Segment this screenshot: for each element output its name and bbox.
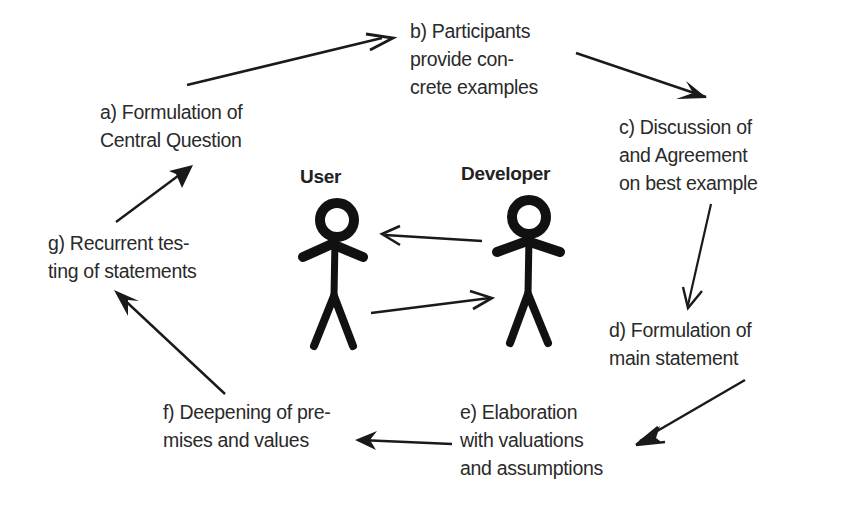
arrow-developer-to-user (382, 226, 482, 245)
step-e-line-1: e) Elaboration (460, 398, 603, 426)
step-e-line-3: and assumptions (460, 454, 603, 482)
step-a-formulation-central-question: a) Formulation of Central Question (100, 98, 242, 154)
step-f-line-1: f) Deepening of pre- (163, 398, 330, 426)
step-d-line-1: d) Formulation of (609, 316, 751, 344)
actor-label-user: User (300, 166, 341, 188)
arrow-g-to-a (116, 165, 193, 222)
arrow-user-to-developer (371, 291, 492, 313)
arrow-f-to-g (114, 290, 225, 394)
step-c-line-1: c) Discussion of (619, 113, 758, 141)
step-f-deepening-premises: f) Deepening of pre- mises and values (163, 398, 330, 454)
arrow-a-to-b (187, 34, 393, 85)
step-b-participants-examples: b) Participants provide con- crete examp… (410, 17, 538, 101)
user-stick-figure (303, 203, 363, 346)
step-b-line-1: b) Participants (410, 17, 538, 45)
arrow-b-to-c (576, 53, 707, 99)
arrow-c-to-d (683, 204, 711, 308)
developer-stick-figure (497, 200, 560, 343)
step-b-line-2: provide con- (410, 45, 538, 73)
step-d-formulation-main-statement: d) Formulation of main statement (609, 316, 751, 372)
step-g-recurrent-testing: g) Recurrent tes- ting of statements (48, 229, 197, 285)
step-c-line-3: on best example (619, 169, 758, 197)
step-e-elaboration: e) Elaboration with valuations and assum… (460, 398, 603, 482)
step-c-discussion-agreement: c) Discussion of and Agreement on best e… (619, 113, 758, 197)
step-f-line-2: mises and values (163, 426, 330, 454)
step-a-line-2: Central Question (100, 126, 242, 154)
arrow-e-to-f (355, 431, 452, 450)
step-g-line-2: ting of statements (48, 257, 197, 285)
step-d-line-2: main statement (609, 344, 751, 372)
step-c-line-2: and Agreement (619, 141, 758, 169)
actor-label-developer: Developer (461, 163, 550, 185)
step-g-line-1: g) Recurrent tes- (48, 229, 197, 257)
step-a-line-1: a) Formulation of (100, 98, 242, 126)
step-b-line-3: crete examples (410, 73, 538, 101)
arrow-d-to-e (636, 380, 745, 445)
step-e-line-2: with valuations (460, 426, 603, 454)
